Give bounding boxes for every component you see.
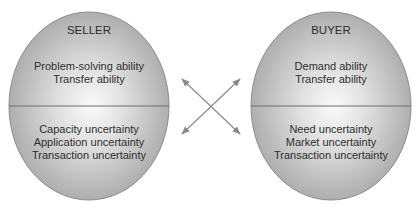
seller-ability: Transfer ability: [53, 73, 125, 85]
seller-ability: Problem-solving ability: [34, 60, 145, 72]
buyer-uncertainty: Need uncertainty: [289, 123, 373, 135]
buyer-ellipse: BUYER Demand ability Transfer ability Ne…: [251, 12, 411, 200]
seller-buyer-diagram: SELLER Problem-solving ability Transfer …: [0, 0, 420, 209]
buyer-ability: Transfer ability: [295, 73, 367, 85]
seller-uncertainty: Application uncertainty: [34, 136, 145, 148]
buyer-ability: Demand ability: [295, 60, 368, 72]
buyer-uncertainty: Transaction uncertainty: [274, 149, 388, 161]
seller-uncertainty: Transaction uncertainty: [32, 149, 146, 161]
buyer-title: BUYER: [311, 24, 351, 36]
buyer-uncertainty: Market uncertainty: [286, 136, 377, 148]
cross-arrows-icon: [182, 79, 240, 134]
seller-uncertainty: Capacity uncertainty: [39, 123, 139, 135]
seller-ellipse: SELLER Problem-solving ability Transfer …: [9, 12, 169, 200]
seller-title: SELLER: [67, 24, 111, 36]
